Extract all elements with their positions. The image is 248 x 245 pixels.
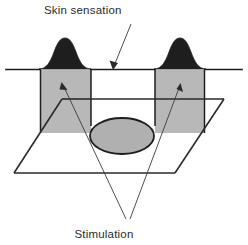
stimulation-label: Stimulation	[74, 228, 133, 240]
skin-sensation-arrow-icon	[110, 61, 119, 71]
skin-sensation-stimulation-figure: Skin sensation Stimulation	[0, 0, 248, 245]
skin-sensation-leader	[114, 24, 131, 66]
left-sensation-hump	[39, 38, 91, 69]
figure-canvas: Skin sensation Stimulation	[0, 0, 248, 245]
receptive-field-ellipse	[90, 118, 154, 154]
skin-sensation-label: Skin sensation	[44, 4, 122, 16]
plane-left-edge	[14, 99, 62, 173]
right-sensation-hump	[154, 38, 206, 69]
right-stimulation-slab	[155, 70, 205, 133]
left-stimulation-slab	[40, 70, 91, 133]
